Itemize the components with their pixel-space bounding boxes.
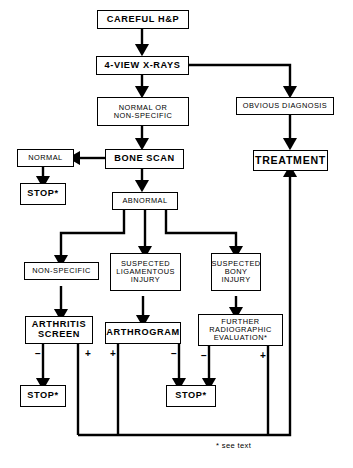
node-arthrogram[interactable]: ARTHROGRAM bbox=[105, 322, 181, 344]
node-further-radiographic-evaluation[interactable]: FURTHER RADIOGRAPHIC EVALUATION* bbox=[198, 314, 283, 346]
node-normal[interactable]: NORMAL bbox=[17, 149, 74, 167]
flowchart-canvas: CAREFUL H&P 4-VIEW X-RAYS NORMAL OR NON-… bbox=[0, 0, 353, 468]
node-abnormal[interactable]: ABNORMAL bbox=[112, 192, 178, 210]
node-normal-or-nonspecific[interactable]: NORMAL OR NON-SPECIFIC bbox=[97, 97, 189, 126]
edge-label-arthrogram-minus: − bbox=[169, 349, 179, 359]
edge-label-arthritis-plus: + bbox=[83, 349, 93, 359]
node-stop-arthrogram[interactable]: STOP* bbox=[166, 385, 216, 407]
edge-label-arthritis-minus: − bbox=[33, 349, 43, 359]
edge-label-arthrogram-plus: + bbox=[108, 349, 118, 359]
node-arthritis-screen[interactable]: ARTHRITIS SCREEN bbox=[25, 316, 93, 344]
edge-label-further-minus: − bbox=[199, 351, 209, 361]
node-stop-normal[interactable]: STOP* bbox=[20, 183, 66, 205]
node-non-specific[interactable]: NON-SPECIFIC bbox=[24, 262, 99, 280]
node-suspected-bony-injury[interactable]: SUSPECTED BONY INJURY bbox=[211, 253, 261, 291]
footnote-see-text: * see text bbox=[216, 441, 251, 450]
node-careful-hp[interactable]: CAREFUL H&P bbox=[97, 10, 189, 29]
node-suspected-ligamentous-injury[interactable]: SUSPECTED LIGAMENTOUS INJURY bbox=[110, 253, 181, 291]
node-bone-scan[interactable]: BONE SCAN bbox=[105, 149, 184, 169]
node-stop-arthritis[interactable]: STOP* bbox=[20, 385, 66, 407]
node-4-view-xrays[interactable]: 4-VIEW X-RAYS bbox=[96, 56, 189, 75]
node-treatment[interactable]: TREATMENT bbox=[253, 150, 328, 171]
edge-label-further-plus: + bbox=[258, 351, 268, 361]
node-obvious-diagnosis[interactable]: OBVIOUS DIAGNOSIS bbox=[236, 97, 334, 115]
